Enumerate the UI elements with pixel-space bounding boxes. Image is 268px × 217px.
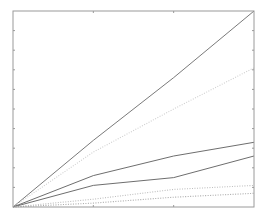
line-chart: [0, 0, 268, 217]
series-line-6: [13, 193, 254, 207]
series-line-2: [13, 68, 254, 207]
series-line-5: [13, 185, 254, 207]
series-line-4: [13, 156, 254, 207]
series-line-1: [13, 11, 254, 207]
series-layer: [13, 11, 254, 207]
